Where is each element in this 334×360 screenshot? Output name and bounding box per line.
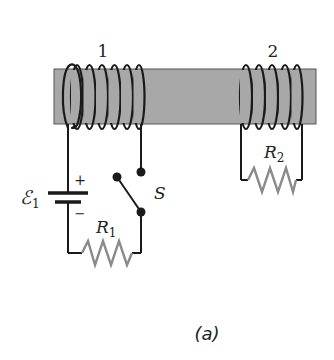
switch-label: S	[154, 183, 166, 203]
resistor-1-icon	[82, 241, 132, 265]
resistor-2-label: R2	[263, 142, 284, 165]
emf-label: ℰ1	[20, 186, 40, 211]
circuit-diagram: 1 2 + − ℰ1 S R1 R2 (a)	[0, 0, 334, 360]
resistor-2-icon	[248, 168, 296, 192]
battery-plus: +	[74, 172, 86, 188]
figure-caption: (a)	[194, 323, 219, 344]
battery-icon	[48, 193, 88, 202]
switch-icon	[113, 168, 146, 217]
battery-minus: −	[75, 206, 86, 221]
coil-1-label: 1	[98, 41, 109, 61]
resistor-1-label: R1	[95, 217, 116, 240]
coil-2-label: 2	[268, 41, 279, 61]
